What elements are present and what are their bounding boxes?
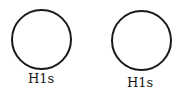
- h1s-orbital-left-circle: [11, 9, 72, 70]
- h1s-orbital-right-label: H1s: [127, 76, 153, 89]
- h1s-orbital-right-circle: [111, 10, 172, 71]
- h1s-orbital-left-label: H1s: [28, 72, 54, 85]
